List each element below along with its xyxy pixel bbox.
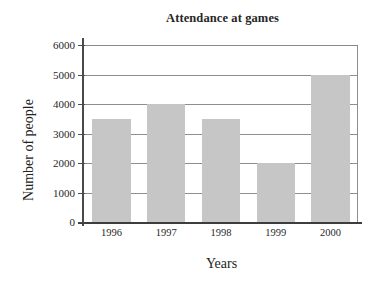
y-axis-tick (78, 163, 85, 164)
x-axis-tick-label: 1997 (156, 227, 177, 238)
bar (257, 163, 295, 222)
y-axis-tick-label: 5000 (53, 69, 75, 81)
y-axis-tick (78, 193, 85, 194)
y-axis-tick (78, 222, 85, 223)
y-axis-tick-label: 3000 (53, 128, 75, 140)
x-axis-spine (78, 222, 362, 224)
bar (147, 104, 185, 222)
bar (92, 119, 130, 222)
y-axis-tick (78, 75, 85, 76)
x-axis-title: Years (84, 256, 359, 272)
y-axis-tick-label: 0 (70, 216, 76, 228)
y-axis-tick (78, 45, 85, 46)
x-axis-tick-label: 1998 (211, 227, 232, 238)
chart-title: Attendance at games (85, 11, 360, 26)
y-axis-tick (78, 104, 85, 105)
x-axis-tick-label: 1996 (101, 227, 122, 238)
x-axis-tick-label: 2000 (320, 227, 341, 238)
gridline (84, 45, 358, 46)
bar (311, 75, 349, 223)
y-axis-title: Number of people (21, 60, 37, 240)
y-axis-tick-label: 4000 (53, 98, 75, 110)
x-axis-tick-label: 1999 (265, 227, 286, 238)
bar-chart-figure: Attendance at games Number of people Yea… (0, 0, 375, 285)
bar (202, 119, 240, 222)
y-axis-tick-label: 1000 (53, 187, 75, 199)
y-axis-tick-label: 6000 (53, 39, 75, 51)
y-axis-tick-label: 2000 (53, 157, 75, 169)
y-axis-tick (78, 134, 85, 135)
plot-area: 0100020003000400050006000 (84, 45, 358, 222)
